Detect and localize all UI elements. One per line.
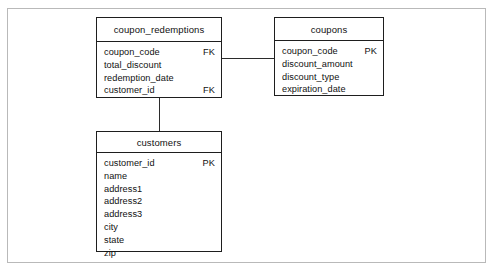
- entity-coupon-redemptions[interactable]: coupon_redemptions coupon_code FK total_…: [96, 17, 222, 98]
- field-row: zip: [104, 247, 215, 260]
- entity-title-text: coupon_redemptions: [114, 24, 205, 35]
- connector-redemptions-to-customers: [159, 98, 160, 131]
- field-row: total_discount: [104, 59, 215, 72]
- field-name: discount_amount: [282, 58, 353, 71]
- field-name: redemption_date: [104, 72, 174, 85]
- field-name: address1: [104, 183, 142, 196]
- field-name: address3: [104, 208, 142, 221]
- field-name: discount_type: [282, 71, 339, 84]
- connector-redemptions-to-coupons: [222, 58, 274, 59]
- entity-fields-customers: customer_id PK name address1 address2 ad…: [97, 153, 221, 263]
- field-name: name: [104, 170, 127, 183]
- entity-title-text: customers: [137, 137, 182, 148]
- entity-fields-coupons: coupon_code PK discount_amount discount_…: [275, 41, 383, 100]
- field-name: total_discount: [104, 59, 161, 72]
- field-name: city: [104, 221, 118, 234]
- field-name: coupon_code: [282, 45, 338, 58]
- field-name: expiration_date: [282, 83, 346, 96]
- field-name: address2: [104, 195, 142, 208]
- field-name: coupon_code: [104, 46, 160, 59]
- field-key-badge: FK: [193, 46, 215, 59]
- field-row: coupon_code FK: [104, 46, 215, 59]
- field-row: redemption_date: [104, 72, 215, 85]
- entity-title-coupons: coupons: [275, 18, 383, 41]
- field-row: address2: [104, 195, 215, 208]
- entity-customers[interactable]: customers customer_id PK name address1 a…: [96, 131, 222, 252]
- field-row: address1: [104, 183, 215, 196]
- field-name: customer_id: [104, 157, 155, 170]
- field-row: discount_type: [282, 71, 377, 84]
- field-row: customer_id PK: [104, 157, 215, 170]
- diagram-frame: [7, 8, 486, 263]
- entity-title-customers: customers: [97, 132, 221, 153]
- field-row: address3: [104, 208, 215, 221]
- entity-title-coupon-redemptions: coupon_redemptions: [97, 18, 221, 42]
- field-name: customer_id: [104, 84, 155, 97]
- field-row: city: [104, 221, 215, 234]
- field-key-badge: FK: [193, 84, 215, 97]
- field-name: state: [104, 234, 124, 247]
- entity-coupons[interactable]: coupons coupon_code PK discount_amount d…: [274, 17, 384, 96]
- field-row: name: [104, 170, 215, 183]
- field-row: discount_amount: [282, 58, 377, 71]
- entity-title-text: coupons: [311, 24, 348, 35]
- field-row: coupon_code PK: [282, 45, 377, 58]
- field-row: customer_id FK: [104, 84, 215, 97]
- diagram-canvas: coupon_redemptions coupon_code FK total_…: [0, 0, 498, 276]
- field-row: state: [104, 234, 215, 247]
- entity-fields-coupon-redemptions: coupon_code FK total_discount redemption…: [97, 42, 221, 101]
- field-key-badge: PK: [355, 45, 377, 58]
- field-name: zip: [104, 247, 116, 260]
- field-key-badge: PK: [193, 157, 215, 170]
- field-row: expiration_date: [282, 83, 377, 96]
